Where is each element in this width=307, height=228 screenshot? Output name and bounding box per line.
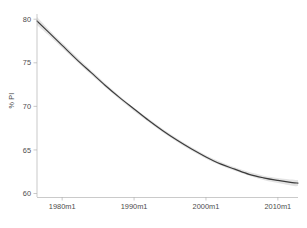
confidence-band xyxy=(37,17,298,186)
plot-svg: 6065707580 1980m11990m12000m12010m1 xyxy=(0,0,307,228)
y-tick-label: 60 xyxy=(23,189,31,198)
y-tick-label: 80 xyxy=(23,15,31,24)
x-tick-label: 2000m1 xyxy=(193,202,220,211)
chart-container: % PI 6065707580 1980m11990m12000m12010m1 xyxy=(0,0,307,228)
y-tick-label: 65 xyxy=(23,146,31,155)
x-tick-label: 1990m1 xyxy=(121,202,148,211)
x-tick-label: 2010m1 xyxy=(265,202,292,211)
y-tick-layer: 6065707580 xyxy=(23,15,37,198)
fitted-line xyxy=(37,21,298,183)
confidence-band-layer xyxy=(37,17,298,186)
fitted-line-layer xyxy=(37,21,298,183)
x-tick-label: 1980m1 xyxy=(49,202,76,211)
y-tick-label: 70 xyxy=(23,102,31,111)
y-tick-label: 75 xyxy=(23,58,31,67)
x-tick-layer: 1980m11990m12000m12010m1 xyxy=(49,197,291,211)
axis-layer xyxy=(37,14,298,198)
